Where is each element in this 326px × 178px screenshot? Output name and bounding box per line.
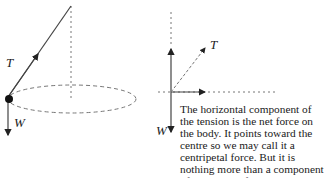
circular-path	[8, 85, 136, 113]
caption-text: The horizontal component of the tension …	[180, 103, 326, 178]
weight-label-left: W	[14, 115, 25, 131]
tension-dashed-arrow	[171, 48, 205, 92]
weight-label-right: W	[156, 123, 167, 139]
tension-label-right: T	[210, 37, 217, 53]
bob	[5, 95, 13, 103]
tension-label-left: T	[6, 55, 13, 71]
